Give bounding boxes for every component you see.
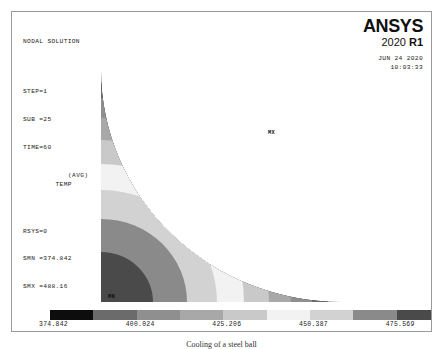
colorbar-swatch-2 <box>93 310 136 320</box>
colorbar-tick-5: 425.206 <box>212 321 241 328</box>
min-node-label: MN <box>108 294 115 300</box>
contour-band-group <box>101 70 341 302</box>
colorbar-tick-1: 374.842 <box>39 321 68 328</box>
header-temp: TEMP <box>56 181 72 188</box>
colorbar-tick-10: 488.16 <box>429 331 432 332</box>
colorbar-tick-6: 437.797 <box>256 331 285 332</box>
contour-plot-area <box>101 70 341 302</box>
time-label: 10:03:33 <box>363 63 423 72</box>
ansys-graphics-window: NODAL SOLUTION STEP=1 SUB =25 TIME=60 TE… <box>11 11 432 332</box>
timestamp-block: JUN 24 2020 10:03:33 <box>363 54 423 72</box>
header-temp-qualifier: (AVG) <box>68 171 88 180</box>
header-temp-row: TEMP (AVG) <box>23 171 80 208</box>
colorbar-tick-3: 400.024 <box>126 321 155 328</box>
solution-header-text: NODAL SOLUTION STEP=1 SUB =25 TIME=60 TE… <box>23 18 80 310</box>
header-step: STEP=1 <box>23 87 80 96</box>
version-release: R1 <box>409 36 423 48</box>
colorbar-swatch-1 <box>50 310 93 320</box>
max-node-label: MX <box>268 130 275 136</box>
date-label: JUN 24 2020 <box>363 54 423 63</box>
colorbar-tick-2: 387.433 <box>82 331 111 332</box>
colorbar-swatch-4 <box>180 310 223 320</box>
contour-bands-svg <box>101 70 341 302</box>
colorbar-swatch-3 <box>137 310 180 320</box>
colorbar-swatch-9 <box>397 310 432 320</box>
colorbar-swatch-6 <box>267 310 310 320</box>
colorbar-tick-8: 462.978 <box>342 331 371 332</box>
version-year: 2020 <box>381 36 405 48</box>
header-sub: SUB =25 <box>23 115 80 124</box>
header-smn: SMN =374.842 <box>23 254 80 263</box>
colorbar-tick-7: 450.387 <box>299 321 328 328</box>
colorbar-swatch-5 <box>223 310 266 320</box>
figure-caption: Cooling of a steel ball <box>0 340 443 349</box>
colorbar-tick-4: 412.615 <box>169 331 198 332</box>
ansys-brand-label: ANSYS <box>363 17 423 35</box>
header-time: TIME=60 <box>23 143 80 152</box>
ansys-logo-block: ANSYS 2020 R1 JUN 24 2020 10:03:33 <box>363 17 423 72</box>
header-smx: SMX =488.16 <box>23 282 80 291</box>
contour-colorbar <box>50 310 432 320</box>
ansys-figure: NODAL SOLUTION STEP=1 SUB =25 TIME=60 TE… <box>0 0 443 349</box>
header-rsys: RSYS=0 <box>23 227 80 236</box>
header-title: NODAL SOLUTION <box>23 37 80 46</box>
colorbar-swatch-8 <box>353 310 396 320</box>
ansys-version-label: 2020 R1 <box>363 36 423 49</box>
colorbar-tick-labels: 374.842387.433400.024412.615425.206437.7… <box>12 320 432 332</box>
colorbar-tick-9: 475.569 <box>386 321 415 328</box>
colorbar-swatch-7 <box>310 310 353 320</box>
header-spacer <box>23 64 80 68</box>
